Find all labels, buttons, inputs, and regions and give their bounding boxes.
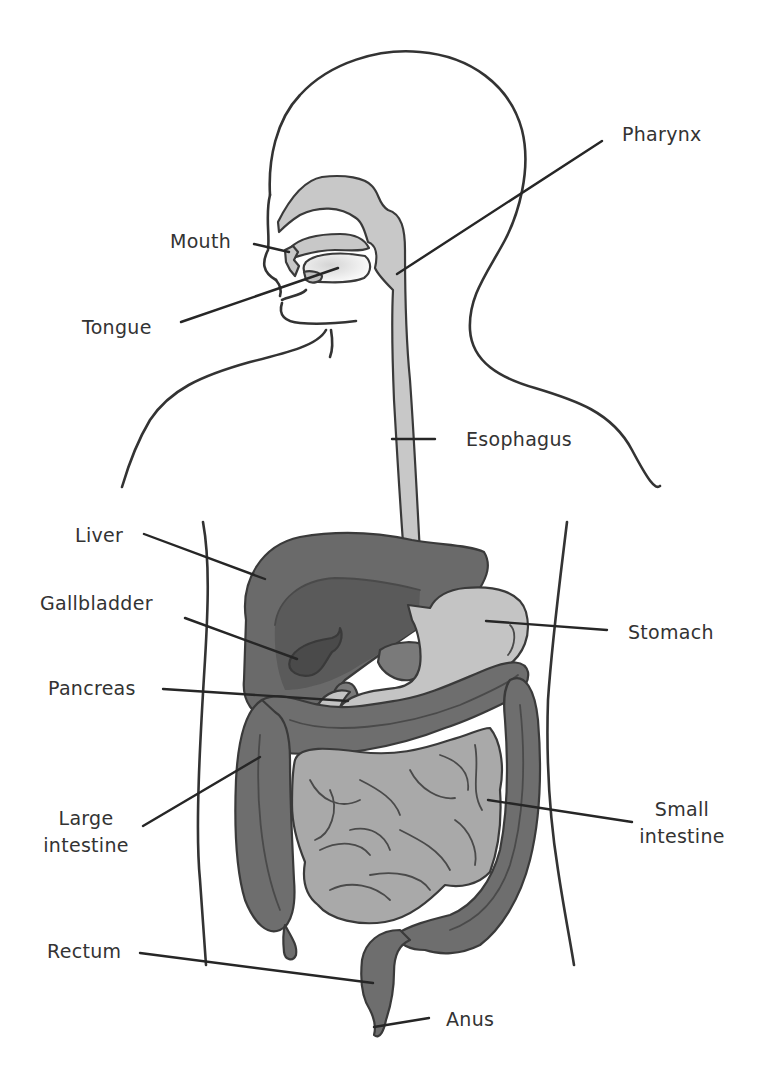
- label-esophagus: Esophagus: [466, 426, 572, 453]
- label-gallbladder: Gallbladder: [40, 590, 153, 617]
- leader-pharynx: [397, 141, 602, 274]
- label-tongue: Tongue: [82, 314, 152, 341]
- label-small-intestine-line1: Small: [632, 796, 732, 823]
- label-liver: Liver: [75, 522, 123, 549]
- label-large-intestine-line1: Large: [36, 805, 136, 832]
- label-anus: Anus: [446, 1006, 494, 1033]
- label-pancreas: Pancreas: [48, 675, 136, 702]
- label-pharynx: Pharynx: [622, 121, 702, 148]
- leader-rectum: [140, 953, 373, 983]
- label-large-intestine: Large intestine: [36, 805, 136, 859]
- label-mouth: Mouth: [170, 228, 231, 255]
- label-large-intestine-line2: intestine: [36, 832, 136, 859]
- small-intestine: [292, 728, 502, 923]
- leader-mouth: [254, 244, 289, 252]
- label-small-intestine: Small intestine: [632, 796, 732, 850]
- label-rectum: Rectum: [47, 938, 121, 965]
- label-stomach: Stomach: [628, 619, 714, 646]
- label-small-intestine-line2: intestine: [632, 823, 732, 850]
- leader-tongue: [181, 268, 338, 322]
